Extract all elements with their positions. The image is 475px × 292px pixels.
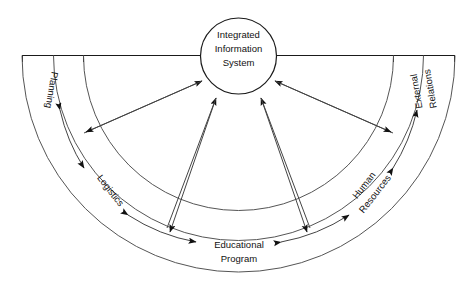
hub-label-line-3: System xyxy=(223,57,255,68)
sector-label-educational-line-2: Program xyxy=(221,253,258,264)
sector-label-external-relations: External Relations xyxy=(407,68,439,112)
spoke-arrows-outward xyxy=(86,81,391,232)
sector-label-planning: Planning xyxy=(43,71,60,109)
spoke-human-resources-to-hub xyxy=(261,98,310,228)
sector-label-logistics-line-1: Logistics xyxy=(95,172,127,208)
semicircle-relationship-diagram: Integrated Information System Planning L… xyxy=(0,0,475,292)
arrow-logistics-educational xyxy=(128,215,196,242)
sector-label-educational-line-1: Educational xyxy=(214,239,264,250)
sector-label-human-resources: Human Resources xyxy=(345,164,393,215)
arrow-educational-human-resources xyxy=(281,215,349,242)
sector-label-logistics: Logistics xyxy=(95,172,127,208)
hub-label-line-1: Integrated xyxy=(217,29,260,40)
sector-label-educational-program: Educational Program xyxy=(214,239,264,264)
spoke-hub-to-planning-outward xyxy=(86,81,202,132)
arrow-planning-logistics xyxy=(60,110,84,168)
spoke-hub-to-external-outward xyxy=(275,81,391,132)
diagram-canvas: Integrated Information System Planning L… xyxy=(0,0,475,292)
sector-label-planning-line-1: Planning xyxy=(43,71,60,109)
spoke-hub-to-educational-left xyxy=(170,98,216,232)
hub-label-line-2: Information xyxy=(215,43,263,54)
arrow-human-resources-external xyxy=(393,110,417,168)
spoke-hub-to-educational-right xyxy=(261,98,307,232)
spoke-logistics-to-hub xyxy=(167,98,216,228)
